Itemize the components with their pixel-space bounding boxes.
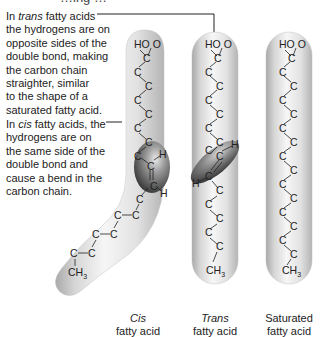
svg-text:C: C [290,248,298,260]
svg-text:C: C [205,144,213,156]
svg-text:C: C [147,160,155,172]
saturated-caption: Saturated fatty acid [259,312,319,337]
svg-text:C: C [134,150,142,162]
svg-text:C: C [216,80,224,92]
svg-text:C: C [279,234,287,246]
svg-text:C: C [279,150,287,162]
svg-text:C: C [132,209,140,221]
svg-text:C: C [290,136,298,148]
svg-text:C: C [88,247,96,259]
svg-text:C: C [145,136,153,148]
svg-text:C: C [216,240,224,252]
svg-text:C: C [143,52,151,64]
svg-text:C: C [216,212,224,224]
trans-caption-rest: fatty acid [193,325,237,337]
svg-text:C: C [279,178,287,190]
svg-text:C: C [205,66,213,78]
saturated-caption-line1: Saturated [265,312,313,324]
svg-text:C: C [290,108,298,120]
svg-text:C: C [70,247,78,259]
svg-text:C: C [205,198,213,210]
svg-text:C: C [216,108,224,120]
svg-text:C: C [290,192,298,204]
saturated-caption-rest: fatty acid [267,325,311,337]
svg-text:C: C [279,122,287,134]
carboxyl-label: HO O [205,38,232,50]
saturated-capsule [266,32,312,284]
cis-caption-emphasis: Cis [130,312,146,324]
svg-text:C: C [290,80,298,92]
carboxyl-label: HO O [279,38,306,50]
svg-text:C: C [214,52,222,64]
trans-caption: Trans fatty acid [185,312,245,337]
svg-text:C: C [134,66,142,78]
svg-text:C: C [288,52,296,64]
svg-text:C: C [114,209,122,221]
hydrogen-label: H [160,187,168,199]
fatty-acid-diagram: HO O C CC CC CC CC CC CC CC CH3 HO O C C… [0,0,330,337]
svg-text:C: C [216,150,224,162]
svg-text:C: C [134,94,142,106]
cis-caption: Cis fatty acid [108,312,168,337]
svg-text:C: C [110,228,118,240]
svg-text:C: C [279,94,287,106]
svg-text:C: C [92,228,100,240]
cis-caption-rest: fatty acid [116,325,160,337]
svg-text:C: C [150,180,158,192]
svg-text:C: C [145,80,153,92]
svg-text:C: C [279,206,287,218]
svg-text:C: C [290,164,298,176]
svg-text:C: C [205,94,213,106]
svg-text:C: C [205,170,213,182]
svg-text:C: C [134,122,142,134]
trans-caption-emphasis: Trans [201,312,228,324]
carboxyl-label: HO O [134,38,161,50]
svg-text:C: C [145,108,153,120]
svg-text:C: C [216,136,224,148]
svg-text:C: C [136,193,144,205]
hydrogen-label: H [192,177,200,189]
hydrogen-label: H [231,138,239,150]
svg-text:C: C [290,220,298,232]
svg-text:C: C [205,226,213,238]
svg-text:C: C [279,66,287,78]
svg-text:C: C [205,122,213,134]
svg-text:C: C [216,184,224,196]
hydrogen-label: H [159,148,167,160]
